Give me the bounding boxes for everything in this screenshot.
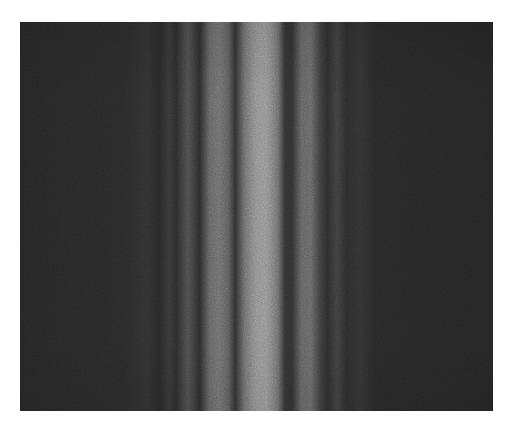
vignette: [20, 22, 493, 411]
fringe-photograph: [20, 22, 493, 411]
image-frame: [0, 0, 514, 436]
